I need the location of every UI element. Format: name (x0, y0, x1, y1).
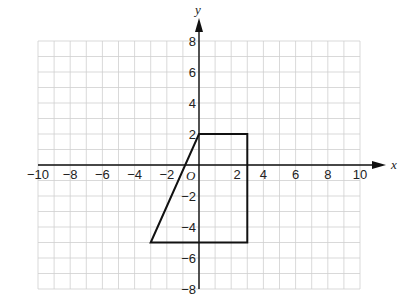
coordinate-grid: xy −10−8−6−4−22468108642−2−4−6−8O (0, 0, 401, 304)
x-tick-label: −6 (95, 167, 110, 182)
axes: xy (38, 2, 397, 289)
x-tick-label: −4 (127, 167, 142, 182)
y-tick-label: 8 (189, 34, 196, 49)
x-tick-label: −2 (159, 167, 174, 182)
x-tick-label: 2 (234, 167, 241, 182)
x-tick-label: 4 (260, 167, 267, 182)
origin-label: O (186, 168, 196, 183)
x-tick-label: −10 (27, 167, 49, 182)
y-tick-label: −4 (181, 220, 196, 235)
x-axis-arrow-icon (372, 161, 386, 169)
x-axis-label: x (390, 157, 397, 172)
y-axis-arrow-icon (195, 18, 203, 32)
y-axis-label: y (193, 2, 201, 17)
y-tick-label: −6 (181, 251, 196, 266)
y-tick-label: 2 (189, 127, 196, 142)
x-tick-label: −8 (63, 167, 78, 182)
x-tick-label: 10 (353, 167, 367, 182)
x-tick-label: 6 (292, 167, 299, 182)
y-tick-label: 4 (189, 96, 196, 111)
x-tick-label: 8 (324, 167, 331, 182)
y-tick-label: −8 (181, 282, 196, 297)
y-tick-label: 6 (189, 65, 196, 80)
y-tick-label: −2 (181, 189, 196, 204)
